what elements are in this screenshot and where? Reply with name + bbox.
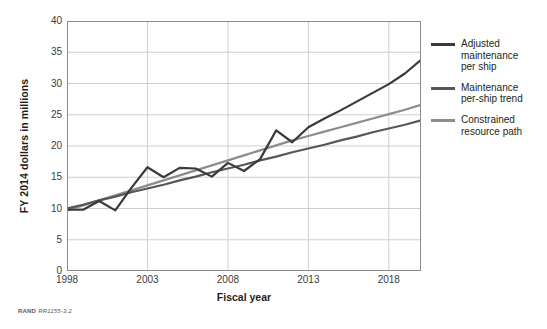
legend-label: Adjusted maintenance per ship	[461, 38, 518, 73]
x-tick-label: 2013	[278, 274, 338, 286]
series-line-maintenance-per-ship-trend	[67, 120, 421, 208]
legend-item-constrained-resource-path[interactable]: Constrained resource path	[431, 114, 543, 137]
x-tick-label: 2008	[198, 274, 258, 286]
y-tick-label: 40	[28, 16, 62, 26]
y-tick-label: 35	[28, 47, 62, 57]
y-tick-label: 15	[28, 172, 62, 182]
chart-legend: Adjusted maintenance per shipMaintenance…	[431, 38, 543, 146]
legend-item-maintenance-per-ship-trend[interactable]: Maintenance per-ship trend	[431, 82, 543, 105]
rand-brand: RAND	[18, 308, 36, 314]
gridlines	[67, 21, 421, 271]
y-tick-label: 25	[28, 110, 62, 120]
chart-figure: FY 2014 dollars in millions 051015202530…	[0, 0, 547, 329]
legend-item-adjusted-maintenance-per-ship[interactable]: Adjusted maintenance per ship	[431, 38, 543, 73]
x-tick-label: 2003	[117, 274, 177, 286]
y-tick-label: 5	[28, 235, 62, 245]
legend-swatch-adjusted-maintenance-per-ship	[431, 43, 455, 46]
x-axis-tick-labels: 19982003200820132018	[0, 274, 547, 290]
x-tick-label: 2018	[359, 274, 419, 286]
legend-label: Maintenance per-ship trend	[461, 82, 523, 105]
plot-svg	[67, 21, 421, 271]
x-axis-title: Fiscal year	[67, 291, 421, 303]
y-tick-label: 20	[28, 141, 62, 151]
series-lines	[67, 60, 421, 211]
x-tick-label: 1998	[37, 274, 97, 286]
legend-swatch-constrained-resource-path	[431, 119, 455, 122]
series-line-adjusted-maintenance-per-ship	[67, 60, 421, 211]
y-tick-label: 10	[28, 204, 62, 214]
legend-swatch-maintenance-per-ship-trend	[431, 87, 455, 90]
figure-code: RR1155-3.2	[38, 308, 72, 314]
figure-footer: RANDRR1155-3.2	[18, 308, 72, 314]
plot-area	[67, 21, 421, 271]
y-tick-label: 30	[28, 79, 62, 89]
legend-label: Constrained resource path	[461, 114, 522, 137]
